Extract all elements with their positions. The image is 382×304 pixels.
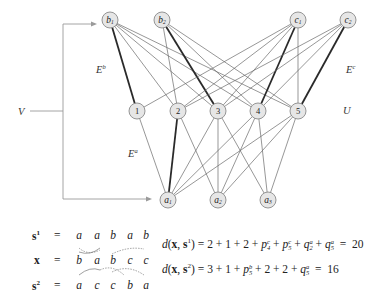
rhs-constants-middle: + 2 + 2 +	[252, 263, 300, 275]
label-ec: Ec	[345, 63, 355, 75]
equals-sign: =	[54, 254, 61, 266]
result-value: 16	[327, 263, 339, 275]
node-a3: a3	[260, 192, 276, 208]
node-u4: 4	[250, 103, 266, 119]
seq-char: c	[125, 254, 135, 266]
node-u1: 1	[129, 103, 145, 119]
node-u3: 3	[210, 103, 226, 119]
node-c2: c2	[340, 12, 356, 28]
seq-char: b	[108, 254, 118, 266]
seq-char: a	[74, 279, 84, 291]
svg-text:1: 1	[135, 106, 139, 116]
func-d: d	[162, 238, 168, 250]
seq-char: c	[141, 254, 151, 266]
formula-d-x-s1: d(x, s1) = 2 + 1 + 2 + pc4 + pc5 + qa2 +…	[162, 237, 363, 252]
label-eb: Eb	[95, 63, 106, 75]
arrow-head-bottom	[146, 197, 152, 202]
arrow-head-top	[91, 22, 97, 27]
term-q5a: qa5	[325, 238, 334, 250]
equals-sign: =	[54, 279, 61, 291]
node-a1: a1	[160, 192, 176, 208]
seq-char: b	[125, 279, 135, 291]
term-q2a: qa2	[304, 238, 313, 250]
term-q5a: qa5	[300, 263, 309, 275]
func-args: (x, s1)	[168, 238, 195, 250]
svg-text:3: 3	[216, 106, 220, 116]
node-u5: 5	[290, 103, 306, 119]
result-value: 20	[352, 238, 364, 250]
seq-char: b	[108, 229, 118, 241]
rhs-constants: = 3 + 1 +	[198, 263, 243, 275]
edges-bottom	[137, 111, 298, 200]
seq-char: c	[108, 279, 118, 291]
alignment-curves-x-s2	[79, 268, 144, 275]
sequence-x-label: x	[34, 254, 40, 266]
seq-char: a	[141, 279, 151, 291]
formula-d-x-s2: d(x, s2) = 3 + 1 + pb5 + 2 + 2 + qa5 = 1…	[162, 262, 339, 277]
seq-char: a	[92, 229, 102, 241]
seq-char: a	[74, 229, 84, 241]
func-args: (x, s2)	[168, 263, 195, 275]
term-p4c: pc4	[261, 238, 270, 250]
equals-sign: =	[54, 229, 61, 241]
term-p5b: pb5	[243, 263, 252, 275]
rhs-constants: = 2 + 1 + 2 +	[198, 238, 261, 250]
edges-top	[110, 20, 348, 111]
seq-char: a	[92, 254, 102, 266]
node-u2: 2	[170, 103, 186, 119]
node-a2: a2	[210, 192, 226, 208]
label-ea: Ea	[127, 147, 138, 159]
term-p5c: pc5	[282, 238, 291, 250]
seq-char: a	[125, 229, 135, 241]
svg-text:2: 2	[176, 106, 180, 116]
label-v: V	[18, 106, 26, 117]
sequence-s1-label: s1	[32, 229, 40, 242]
node-b2: b2	[154, 12, 170, 28]
svg-text:5: 5	[296, 106, 300, 116]
set-label-u: U	[343, 105, 352, 116]
func-d: d	[162, 263, 168, 275]
seq-char: b	[141, 229, 151, 241]
node-b1: b1	[102, 12, 118, 28]
node-c1: c1	[290, 12, 306, 28]
sequence-s2-label: s2	[32, 279, 40, 292]
seq-char: b	[74, 254, 84, 266]
seq-char: c	[92, 279, 102, 291]
